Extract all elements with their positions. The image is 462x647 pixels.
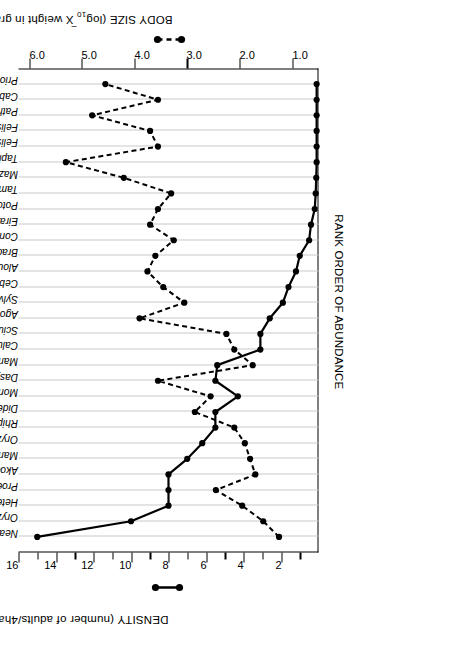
species-label: Conepatus semistriatus (skunk) [0, 231, 18, 242]
density-tick-label: 10 [118, 560, 130, 571]
density-point [313, 143, 319, 149]
density-point [313, 159, 319, 165]
bodysize-point [246, 455, 252, 461]
density-minor-tick [37, 552, 38, 559]
bodysize-title-mid: X weight in grams) [0, 13, 76, 25]
density-minor-tick [187, 552, 188, 559]
density-axis-title: DENSITY (number of adults/4ha) [0, 613, 168, 625]
bodysize-point [154, 143, 160, 149]
species-label: Neacomys tenuipes (spiny mouse) [0, 527, 18, 538]
bodysize-tick-label: 4.0 [134, 50, 149, 61]
density-tick-label: 14 [43, 560, 55, 571]
density-point [313, 81, 319, 87]
species-label: Felis pardalis (ocelot) [0, 137, 18, 148]
species-label: Oryzomys concolor (rice rat) [0, 434, 18, 445]
species-label: Bradypus infuscatus (three-toed sloth) [0, 246, 18, 257]
density-legend-symbol [150, 579, 184, 595]
density-tick-label: 6 [199, 560, 205, 571]
chart-figure: DENSITY (number of adults/4ha) BODY SIZE… [0, 0, 462, 647]
species-label: Oryzomys capito (rice rat) [0, 512, 18, 523]
species-label: Cebus nigrivittatus (cebus monkey) [0, 277, 18, 288]
density-minor-tick [74, 552, 75, 559]
bodysize-line [65, 84, 278, 537]
species-label: Pathera onca (jaguar) [0, 106, 18, 117]
density-minor-tick [149, 552, 150, 559]
bodysize-point [207, 393, 213, 399]
plot-wrapper: DENSITY (number of adults/4ha) BODY SIZE… [0, 0, 462, 647]
species-label: Dasyprocta agouti (agouti) [0, 371, 18, 382]
density-point [212, 377, 218, 383]
bodysize-legend-symbol [152, 31, 186, 47]
bodysize-point [231, 346, 237, 352]
bodysize-point [223, 330, 229, 336]
bodysize-tick-label: 1.0 [292, 50, 307, 61]
data-series-layer [18, 68, 318, 552]
density-point [165, 486, 171, 492]
bodysize-point [62, 159, 68, 165]
bodysize-title-pre: BODY SIZE (log [86, 13, 172, 25]
density-minor-tick [224, 552, 225, 559]
density-tick-label: 2 [274, 560, 280, 571]
density-point [313, 174, 319, 180]
bodysize-point [102, 81, 108, 87]
bodysize-point [212, 486, 218, 492]
bodysize-point [160, 283, 166, 289]
species-label: Potos flavus (kinkajou) [0, 199, 18, 210]
bodysize-point [154, 377, 160, 383]
species-label: Rhipidomys venezuelae (climbing rat) [0, 418, 18, 429]
species-label: Tapirus terretris (tapir) [0, 153, 18, 164]
bodysize-point [146, 221, 152, 227]
species-label: Sylvilagus braziliensis (rabbit) [0, 293, 18, 304]
bodysize-point [231, 424, 237, 430]
bodysize-tick-label: 2.0 [239, 50, 254, 61]
bodysize-point [154, 205, 160, 211]
density-point [312, 190, 318, 196]
density-point [313, 112, 319, 118]
bodysize-tick-label: 3.0 [186, 50, 201, 61]
species-label: Sciurus granatensis (squirrel) [0, 324, 18, 335]
species-label: Cabassous unicinctus (naked-tailed armad… [0, 90, 18, 101]
rotated-chart-canvas: DENSITY (number of adults/4ha) BODY SIZE… [0, 0, 462, 647]
density-line [37, 84, 316, 537]
species-label: Caluromys philander (wooly opossum) [0, 340, 18, 351]
bodysize-point [89, 112, 95, 118]
bodysize-point [154, 96, 160, 102]
density-point [313, 96, 319, 102]
density-point [306, 237, 312, 243]
bodysize-point [241, 440, 247, 446]
species-label: Eira barbara (tayra) [0, 215, 18, 226]
bodysize-axis-title: BODY SIZE (log10 X weight in grams) [0, 10, 172, 25]
species-label: Mazama americana (brocket deer) [0, 168, 18, 179]
density-point [127, 518, 133, 524]
species-label: Marmosa fuscata (opossum) [0, 449, 18, 460]
density-point [313, 127, 319, 133]
bodysize-point [120, 174, 126, 180]
bodysize-title-subscript: 10 [76, 10, 85, 19]
bodysize-point [249, 362, 255, 368]
density-minor-tick [299, 552, 300, 559]
density-tick-label: 8 [162, 560, 168, 571]
species-label: Alouatta seniculus (howler monkey) [0, 262, 18, 273]
species-label: Monodelphis brevicauda (short-tailed opo… [0, 387, 18, 398]
species-label: Agouti paca (paca) [0, 309, 18, 320]
species-label: Heteromys anomalus (spiny pocket mouse) [0, 496, 18, 507]
density-point [214, 362, 220, 368]
density-tick-label: 16 [6, 560, 18, 571]
density-minor-tick [112, 552, 113, 559]
bodysize-tick-label: 6.0 [29, 50, 44, 61]
species-label: Proechimys semispinosus (spiny rat) [0, 480, 18, 491]
rank-axis-title: RANK ORDER OF ABUNDANCE [332, 214, 344, 389]
density-minor-tick [262, 552, 263, 559]
bodysize-point [136, 315, 142, 321]
density-tick-label: 12 [81, 560, 93, 571]
species-label: Felis yagouaroundi (jaguarundi) [0, 121, 18, 132]
density-point [34, 533, 40, 539]
species-label: Tamandua longicaudata (lesser anteater) [0, 184, 18, 195]
species-label: Priodontes gigantea (giant armadillo) [0, 75, 18, 86]
bodysize-point [168, 190, 174, 196]
species-label: Akodon urichi (South American field mous… [0, 465, 18, 476]
density-tick-label: 4 [237, 560, 243, 571]
species-label: Marmosa cinerea (mouse opossum) [0, 356, 18, 367]
bodysize-tick-label: 5.0 [81, 50, 96, 61]
species-label: Didelphis marsupialis (opossum) [0, 402, 18, 413]
